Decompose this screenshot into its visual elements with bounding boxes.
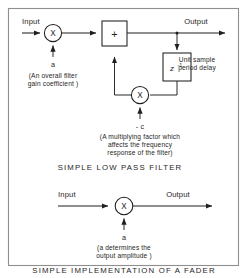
output-label-fader: Output	[166, 190, 190, 199]
gain-coefficient-label: a	[51, 60, 55, 69]
output-label-lowpass: Output	[184, 17, 208, 26]
input-label-fader: Input	[58, 190, 76, 199]
unit-delay-note-line1: Unit sample	[179, 56, 216, 64]
lowpass-title: SIMPLE LOW PASS FILTER	[58, 163, 183, 172]
fader-note-line2: output amplitude )	[96, 252, 151, 260]
output-tap-junction	[176, 32, 179, 35]
fader-coefficient-label: a	[122, 233, 126, 242]
unit-delay-note-line2: period delay	[178, 64, 216, 72]
fader-note-line1: (a determines the	[97, 244, 151, 252]
unit-delay-symbol: z	[169, 64, 174, 73]
gain-coefficient-note-line2: gain coefficient )	[28, 80, 79, 88]
fader-title: SIMPLE IMPLEMENTATION OF A FADER	[32, 266, 215, 275]
input-label-lowpass: Input	[22, 17, 40, 26]
signal-flow-figure: X + z -1 X Input Output a (An overall fi…	[0, 0, 248, 278]
feedback-multiplier-symbol: X	[137, 91, 143, 100]
gain-multiplier-symbol: X	[50, 29, 56, 38]
feedback-coefficient-label: - c	[136, 122, 145, 131]
feedback-note-line2: affects the frequency	[108, 141, 173, 149]
gain-coefficient-note-line1: (An overall filter	[29, 72, 78, 80]
feedback-note-line1: (A multiplying factor which	[100, 133, 180, 141]
feedback-note-line3: response of the filter)	[107, 149, 172, 157]
feedback-to-adder-wire	[115, 57, 132, 95]
delay-feedback-wire	[150, 81, 177, 95]
adder-symbol: +	[111, 28, 117, 40]
fader-multiplier-symbol: X	[121, 202, 127, 211]
